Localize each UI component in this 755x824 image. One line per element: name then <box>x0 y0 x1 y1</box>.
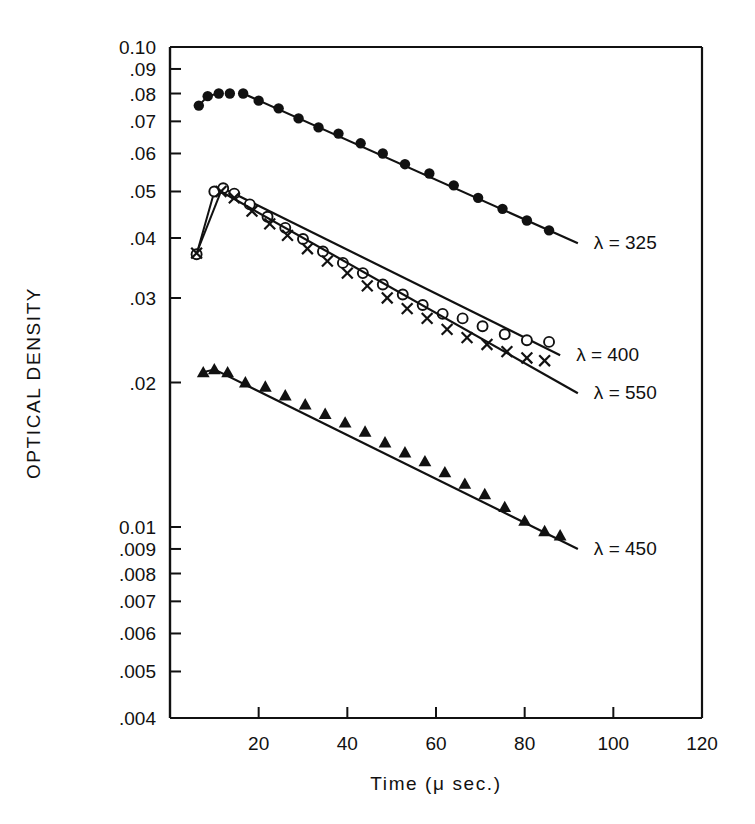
x-tick-label: 40 <box>337 733 358 754</box>
data-point-filled-circle <box>253 95 263 105</box>
annotation-325: λ = 325 <box>594 232 657 253</box>
x-tick-label: 20 <box>248 733 269 754</box>
y-tick-label: .06 <box>130 143 156 164</box>
y-tick-label: .008 <box>119 564 156 585</box>
x-tick-label: 100 <box>597 733 629 754</box>
y-tick-label: .005 <box>119 661 156 682</box>
figure-container: .004.005.006.007.008.0090.01.02.03.04.05… <box>0 0 755 824</box>
data-point-open-circle <box>500 329 510 339</box>
y-tick-label: 0.10 <box>119 37 156 58</box>
annotation-550: λ = 550 <box>594 382 657 403</box>
data-point-open-circle <box>478 321 488 331</box>
data-point-filled-circle <box>273 103 283 113</box>
data-point-filled-circle <box>544 225 554 235</box>
data-point-filled-circle <box>214 88 224 98</box>
y-tick-label: .09 <box>130 59 156 80</box>
y-tick-label: .07 <box>130 111 156 132</box>
x-axis-title: Time (μ sec.) <box>370 773 501 794</box>
data-point-open-circle <box>522 335 532 345</box>
y-tick-label: .006 <box>119 623 156 644</box>
x-tick-label: 120 <box>686 733 718 754</box>
y-tick-label: .05 <box>130 181 156 202</box>
y-tick-label: .009 <box>119 539 156 560</box>
data-point-filled-circle <box>293 113 303 123</box>
y-axis-title: OPTICAL DENSITY <box>23 287 44 479</box>
data-point-filled-circle <box>522 215 532 225</box>
data-point-filled-circle <box>424 168 434 178</box>
data-point-filled-circle <box>194 100 204 110</box>
data-point-open-circle <box>458 313 468 323</box>
annotation-400: λ = 400 <box>576 344 639 365</box>
data-point-filled-circle <box>449 180 459 190</box>
data-point-filled-circle <box>313 122 323 132</box>
data-point-filled-circle <box>378 148 388 158</box>
data-point-filled-circle <box>473 193 483 203</box>
data-point-filled-circle <box>497 204 507 214</box>
data-point-filled-circle <box>202 91 212 101</box>
data-point-filled-circle <box>355 138 365 148</box>
data-point-filled-circle <box>238 88 248 98</box>
chart-background <box>0 0 755 824</box>
data-point-open-circle <box>544 337 554 347</box>
y-tick-label: .03 <box>130 288 156 309</box>
y-tick-label: .004 <box>119 708 156 729</box>
x-tick-label: 80 <box>514 733 535 754</box>
optical-density-chart: .004.005.006.007.008.0090.01.02.03.04.05… <box>0 0 755 824</box>
x-tick-label: 60 <box>425 733 446 754</box>
data-point-filled-circle <box>225 88 235 98</box>
y-tick-label: .007 <box>119 591 156 612</box>
data-point-filled-circle <box>400 159 410 169</box>
annotation-450: λ = 450 <box>594 538 657 559</box>
y-tick-label: .04 <box>130 228 157 249</box>
data-point-filled-circle <box>333 128 343 138</box>
y-tick-label: 0.01 <box>119 517 156 538</box>
y-tick-label: .02 <box>130 373 156 394</box>
y-tick-label: .08 <box>130 84 156 105</box>
